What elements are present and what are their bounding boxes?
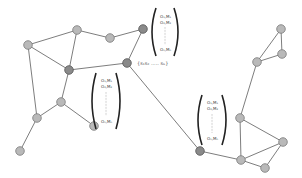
hub-state-label: {s₁s₂ ..... sₙ}: [137, 60, 168, 66]
left-paren: [92, 73, 96, 129]
right-paren: [174, 8, 178, 56]
edge-A-E: [28, 45, 69, 70]
matrix-entry: Oₙ,Mₙ: [207, 136, 218, 141]
matrix-entry: Oₙ,Mₙ: [160, 47, 171, 52]
graph-node-M: [279, 138, 288, 147]
node-layer: [16, 25, 288, 173]
matrix-entry: O₁,M₁: [160, 14, 171, 19]
graph-node-H: [33, 114, 42, 123]
edge-K-N: [200, 151, 241, 160]
edge-B-C: [77, 30, 110, 38]
graph-node-C: [106, 34, 115, 43]
graph-node-L: [236, 114, 245, 123]
graph-node-K: [196, 147, 205, 156]
graph-node-P: [253, 58, 262, 67]
edge-C-D: [110, 29, 143, 38]
state-matrix-middle: O₁,M₁ O₂,M₂ Oₙ,Mₙ: [92, 73, 120, 129]
edge-L-P: [240, 62, 257, 118]
graph-node-F: [123, 59, 132, 68]
edge-N-L: [240, 118, 241, 160]
graph-node-G: [57, 98, 66, 107]
edge-F-K: [127, 63, 200, 151]
state-matrix-top: O₁,M₁ O₂,M₂ Oₙ,Mₙ: [152, 8, 178, 56]
edge-B-E: [69, 30, 77, 70]
graph-node-R: [278, 50, 287, 59]
matrix-entry: O₁,M₁: [101, 78, 112, 83]
edge-D-F: [127, 29, 143, 63]
edge-L-M: [240, 118, 283, 142]
matrix-entry: O₂,M₂: [207, 106, 218, 111]
edge-A-H: [28, 45, 37, 118]
matrix-entry: O₂,M₂: [160, 20, 171, 25]
state-matrix-right: O₁,M₁ O₂,M₂ Oₙ,Mₙ: [198, 95, 226, 145]
edge-E-G: [61, 70, 69, 102]
edge-G-I: [61, 102, 94, 126]
graph-node-B: [73, 26, 82, 35]
graph-diagram: O₁,M₁ O₂,M₂ Oₙ,Mₙ O₁,M₁ O₂,M₂ Oₙ,Mₙ O₁,M…: [0, 0, 302, 178]
edge-P-Q: [257, 29, 281, 62]
matrix-entry: O₁,M₁: [207, 100, 218, 105]
right-paren: [222, 95, 226, 145]
graph-node-O: [261, 164, 270, 173]
left-paren: [152, 8, 156, 56]
right-paren: [116, 73, 120, 129]
graph-node-D: [139, 25, 148, 34]
matrix-entry: Oₙ,Mₙ: [101, 119, 112, 124]
matrix-entry: O₂,M₂: [101, 84, 112, 89]
edge-A-B: [28, 30, 77, 45]
edge-E-F: [69, 63, 127, 70]
graph-node-N: [237, 156, 246, 165]
graph-node-Q: [277, 25, 286, 34]
graph-node-A: [24, 41, 33, 50]
edge-H-J: [20, 118, 37, 151]
graph-node-J: [16, 147, 25, 156]
left-paren: [198, 95, 202, 145]
graph-node-E: [65, 66, 74, 75]
